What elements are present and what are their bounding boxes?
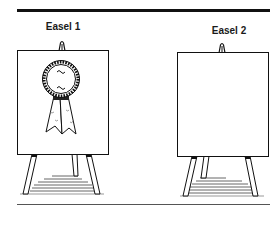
- easel-2-rear-leg: [201, 156, 209, 178]
- easel-1: [18, 42, 109, 195]
- easel-1-rear-leg: [72, 154, 78, 176]
- bottom-rule: [17, 204, 270, 205]
- easel-2-board: [178, 53, 269, 157]
- easel-2: [178, 44, 269, 197]
